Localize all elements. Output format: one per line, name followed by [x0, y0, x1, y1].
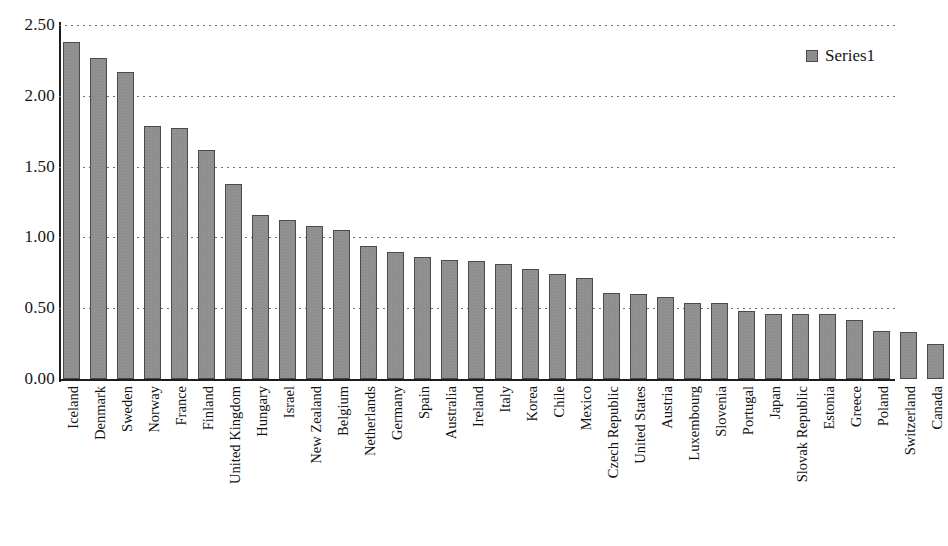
category-label-text: Poland [875, 386, 890, 426]
x-axis-category-label: Italy [491, 384, 518, 542]
bar[interactable] [846, 320, 863, 379]
bar[interactable] [522, 269, 539, 379]
category-label-text: France [173, 386, 188, 425]
bar[interactable] [171, 128, 188, 379]
bar[interactable] [684, 303, 701, 379]
x-axis-category-label: United Kingdom [221, 384, 248, 542]
bar[interactable] [117, 72, 134, 379]
category-label-text: Greece [848, 386, 863, 427]
bar[interactable] [630, 294, 647, 379]
bar[interactable] [414, 257, 431, 379]
bar-slot [815, 25, 842, 379]
x-axis-category-labels: IcelandDenmarkSwedenNorwayFranceFinlandU… [59, 384, 895, 544]
category-label-text: Czech Republic [605, 386, 620, 478]
category-label-text: Canada [929, 386, 944, 429]
x-axis-category-label: Slovak Republic [788, 384, 815, 542]
category-label-text: Mexico [578, 386, 593, 430]
bar[interactable] [657, 297, 674, 379]
x-axis-category-label: Norway [140, 384, 167, 542]
x-axis-category-label: Austria [653, 384, 680, 542]
category-label-text: Spain [416, 386, 431, 419]
bar-slot [167, 25, 194, 379]
x-axis-category-label: Iceland [59, 384, 86, 542]
bar-slot [761, 25, 788, 379]
bar-slot [491, 25, 518, 379]
bar-slot [113, 25, 140, 379]
bar[interactable] [387, 252, 404, 379]
category-label-text: Korea [524, 386, 539, 421]
x-axis-category-label: Estonia [815, 384, 842, 542]
x-axis-category-label: Australia [437, 384, 464, 542]
bar-slot [140, 25, 167, 379]
category-label-text: Ireland [470, 386, 485, 427]
bar[interactable] [333, 230, 350, 379]
y-axis-tick-label: 1.50 [5, 158, 55, 175]
bar[interactable] [441, 260, 458, 379]
y-axis-tick-label: 0.00 [5, 370, 55, 387]
bar[interactable] [279, 220, 296, 379]
x-axis-category-label: United States [626, 384, 653, 542]
bar[interactable] [198, 150, 215, 379]
x-axis-category-label: Finland [194, 384, 221, 542]
bar-slot [599, 25, 626, 379]
bar[interactable] [468, 261, 485, 379]
x-axis-category-label: New Zealand [302, 384, 329, 542]
bar[interactable] [360, 246, 377, 379]
y-axis-tick-label: 2.00 [5, 87, 55, 104]
bar[interactable] [927, 344, 944, 379]
category-label-text: Portugal [740, 386, 755, 435]
category-label-text: Germany [389, 386, 404, 440]
category-label-text: Australia [443, 386, 458, 439]
category-label-text: United Kingdom [227, 386, 242, 484]
bar[interactable] [90, 58, 107, 379]
category-label-text: Japan [767, 386, 782, 419]
bar[interactable] [252, 215, 269, 379]
bar[interactable] [63, 42, 80, 379]
bar-slot [221, 25, 248, 379]
x-axis-category-label: Japan [761, 384, 788, 542]
bar[interactable] [711, 303, 728, 379]
bar-slot [869, 25, 896, 379]
bar[interactable] [900, 332, 917, 379]
category-label-text: Hungary [254, 386, 269, 437]
legend: Series1 [806, 47, 875, 64]
x-axis-category-label: Slovenia [707, 384, 734, 542]
bar-slot [302, 25, 329, 379]
x-axis-category-label: Canada [923, 384, 948, 542]
x-axis-category-label: Ireland [464, 384, 491, 542]
bar-slot [545, 25, 572, 379]
x-axis-category-label: Poland [869, 384, 896, 542]
bar-slot [626, 25, 653, 379]
bar[interactable] [819, 314, 836, 379]
category-label-text: Slovak Republic [794, 386, 809, 482]
bar-slot [86, 25, 113, 379]
bar[interactable] [792, 314, 809, 379]
bar-slot [734, 25, 761, 379]
bar-slot [437, 25, 464, 379]
bar[interactable] [576, 278, 593, 379]
bar[interactable] [738, 311, 755, 379]
bar-slot [896, 25, 923, 379]
category-label-text: Switzerland [902, 386, 917, 455]
y-axis-tick-labels: 2.502.001.501.000.500.00 [0, 0, 55, 546]
bar[interactable] [765, 314, 782, 379]
category-label-text: Slovenia [713, 386, 728, 437]
bar[interactable] [495, 264, 512, 379]
bar[interactable] [306, 226, 323, 379]
bar[interactable] [225, 184, 242, 379]
x-axis-category-label: Luxembourg [680, 384, 707, 542]
x-axis-category-label: Mexico [572, 384, 599, 542]
bar[interactable] [549, 274, 566, 379]
plot-area [59, 25, 895, 379]
bar[interactable] [603, 293, 620, 379]
category-label-text: Italy [497, 386, 512, 413]
bar-slot [59, 25, 86, 379]
x-axis-category-label: Germany [383, 384, 410, 542]
bar[interactable] [144, 126, 161, 379]
category-label-text: Israel [281, 386, 296, 418]
category-label-text: Norway [146, 386, 161, 433]
bar-slot [518, 25, 545, 379]
bar[interactable] [873, 331, 890, 379]
bar-slot [383, 25, 410, 379]
category-label-text: New Zealand [308, 386, 323, 464]
